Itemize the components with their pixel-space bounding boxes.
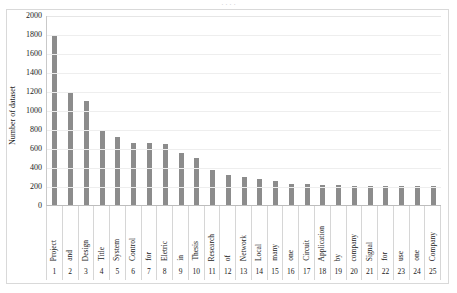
gridline (47, 16, 441, 17)
x-index-label: 11 (205, 262, 221, 280)
bar-slot (157, 15, 173, 205)
y-tick-label: 800 (30, 126, 42, 134)
gridline (47, 73, 441, 74)
x-label-cell: Thesis (189, 206, 205, 262)
x-index-label: 24 (410, 262, 426, 280)
bar-slot (189, 15, 205, 205)
x-axis-category-labels: ProjectandDesignTitleSystemControlforEle… (46, 206, 441, 262)
bar[interactable] (399, 186, 404, 205)
bar[interactable] (84, 101, 89, 206)
bar[interactable] (179, 153, 184, 205)
x-index-label: 25 (425, 262, 441, 280)
bar-slot (205, 15, 221, 205)
bar[interactable] (257, 179, 262, 205)
x-index-label: 6 (126, 262, 142, 280)
x-index-label: 8 (157, 262, 173, 280)
bar[interactable] (383, 186, 388, 205)
x-index-label: 15 (268, 262, 284, 280)
bar[interactable] (226, 175, 231, 205)
chart-title-cropped: · · · · (0, 0, 457, 6)
gridline (47, 149, 441, 150)
x-label-cell: Control (126, 206, 142, 262)
x-index-label: 2 (63, 262, 79, 280)
bar[interactable] (52, 35, 57, 205)
x-label-cell: and (63, 206, 79, 262)
x-category-label: Network (240, 235, 248, 261)
x-label-cell: Circuit (299, 206, 315, 262)
x-label-cell: Eletric (157, 206, 173, 262)
bar[interactable] (131, 143, 136, 205)
bar-slot (410, 15, 426, 205)
bar-slot (220, 15, 236, 205)
bar-slot (94, 15, 110, 205)
x-label-cell: Application (315, 206, 331, 262)
gridline (47, 168, 441, 169)
bar-slot (110, 15, 126, 205)
bar-slot (378, 15, 394, 205)
x-index-label: 23 (394, 262, 410, 280)
x-label-cell: in (173, 206, 189, 262)
x-index-label: 20 (347, 262, 363, 280)
x-label-cell: one (283, 206, 299, 262)
x-category-label: Design (82, 240, 90, 261)
bar[interactable] (352, 186, 357, 205)
x-category-label: Application (318, 226, 326, 261)
x-label-cell: for (378, 206, 394, 262)
x-category-label: Eletric (161, 241, 169, 261)
bar[interactable] (336, 185, 341, 205)
bar-slot (425, 15, 441, 205)
x-category-label: Local (255, 244, 263, 261)
bar[interactable] (147, 143, 152, 205)
x-category-label: Title (98, 247, 106, 261)
x-index-label: 10 (189, 262, 205, 280)
x-category-label: Thesis (192, 241, 200, 261)
x-label-cell: Company (425, 206, 441, 262)
bar[interactable] (115, 137, 120, 205)
x-index-label: 14 (252, 262, 268, 280)
bar-slot (362, 15, 378, 205)
bar[interactable] (242, 177, 247, 205)
bar-slot (252, 15, 268, 205)
bar[interactable] (415, 186, 420, 205)
x-index-label: 7 (142, 262, 158, 280)
x-label-cell: by (331, 206, 347, 262)
x-index-label: 13 (236, 262, 252, 280)
bar[interactable] (163, 144, 168, 205)
bar-slot (47, 15, 63, 205)
x-category-label: and (66, 250, 74, 261)
gridline (47, 92, 441, 93)
x-label-cell: company (347, 206, 363, 262)
plot-area (46, 16, 441, 206)
bar[interactable] (194, 158, 199, 205)
x-label-cell: one (410, 206, 426, 262)
y-tick-label: 600 (30, 145, 42, 153)
bar-slot (315, 15, 331, 205)
bar[interactable] (431, 186, 436, 205)
x-label-cell: Project (47, 206, 63, 262)
x-category-label: Control (129, 238, 137, 261)
y-tick-label: 0 (38, 202, 42, 210)
x-index-label: 22 (378, 262, 394, 280)
bar-slot (79, 15, 95, 205)
bar-slot (173, 15, 189, 205)
x-label-cell: for (142, 206, 158, 262)
bar[interactable] (368, 186, 373, 205)
y-tick-label: 2000 (26, 12, 42, 20)
x-label-cell: of (220, 206, 236, 262)
gridline (47, 130, 441, 131)
x-index-label: 19 (331, 262, 347, 280)
x-index-label: 18 (315, 262, 331, 280)
bar-slot (236, 15, 252, 205)
gridline (47, 35, 441, 36)
x-category-label: use (397, 251, 405, 261)
x-label-cell: Research (205, 206, 221, 262)
x-category-label: company (350, 234, 358, 262)
x-category-label: System (113, 239, 121, 261)
x-label-cell: Signal (362, 206, 378, 262)
bar[interactable] (320, 185, 325, 205)
bar[interactable] (273, 181, 278, 205)
bar-series (47, 15, 441, 205)
bar-slot (63, 15, 79, 205)
x-index-label: 12 (220, 262, 236, 280)
x-axis-index-labels: 1234567891011121314151617181920212223242… (46, 262, 441, 280)
